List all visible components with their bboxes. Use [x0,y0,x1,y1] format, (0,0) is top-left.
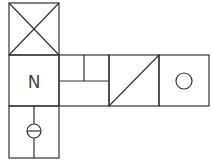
split-box [59,55,109,106]
n-label: N [28,72,41,92]
diagonal-box [109,55,159,106]
n-box: N [9,55,59,106]
circle-box [159,55,209,106]
circle-icon [176,73,192,89]
bottom-box [9,106,59,158]
cross-box [9,3,59,55]
diagram-canvas: N [0,0,213,164]
